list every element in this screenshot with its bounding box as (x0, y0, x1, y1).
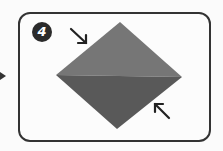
arrow-down-right-icon (71, 29, 86, 43)
arrow-up-left-icon (155, 104, 169, 118)
